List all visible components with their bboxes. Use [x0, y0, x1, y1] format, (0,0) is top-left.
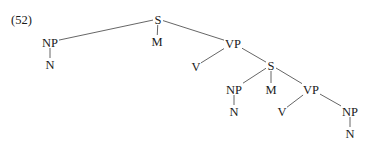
tree-edge-vp2-v2 — [287, 95, 303, 107]
tree-node-np1: NP — [42, 36, 58, 50]
tree-node-vp2: VP — [303, 83, 319, 97]
tree-edge-s1-vp1 — [163, 21, 224, 41]
tree-edge-vp2-np3 — [320, 94, 341, 106]
tree-node-s2: S — [268, 59, 275, 73]
tree-node-v1: V — [191, 60, 200, 74]
tree-edge-s2-vp2 — [276, 68, 302, 84]
tree-node-n1: N — [45, 58, 54, 72]
tree-edges — [50, 20, 350, 127]
tree-node-np3: NP — [342, 105, 358, 119]
tree-edge-s2-np2 — [243, 68, 266, 83]
tree-node-m2: M — [265, 83, 276, 97]
tree-node-v2: V — [277, 105, 286, 119]
tree-node-np2: NP — [226, 83, 242, 97]
tree-edge-vp1-v1 — [201, 49, 224, 63]
tree-node-m1: M — [151, 35, 162, 49]
tree-node-vp1: VP — [225, 37, 241, 51]
tree-edge-vp1-s2 — [242, 48, 266, 62]
tree-edge-s1-np1 — [59, 20, 153, 40]
tree-node-n3: N — [345, 127, 354, 141]
tree-node-s1: S — [155, 13, 162, 27]
syntax-tree-diagram: (52) SNPNMVPVSNPNMVPVNPN — [0, 0, 371, 151]
example-number: (52) — [11, 13, 32, 27]
tree-node-n2: N — [229, 105, 238, 119]
tree-nodes: SNPNMVPVSNPNMVPVNPN — [42, 13, 358, 141]
